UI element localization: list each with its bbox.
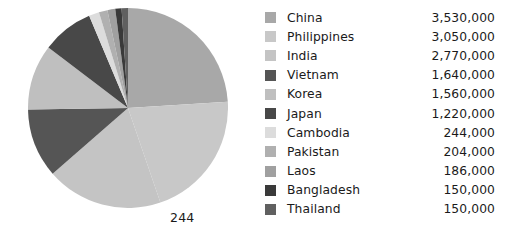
- chart-legend: China3,530,000Philippines3,050,000India2…: [265, 8, 495, 219]
- legend-item-value: 150,000: [409, 183, 495, 197]
- legend-item[interactable]: China3,530,000: [265, 8, 495, 27]
- legend-item-label: Bangladesh: [287, 183, 409, 197]
- legend-item-value: 186,000: [409, 164, 495, 178]
- pie-chart-figure: 244 China3,530,000Philippines3,050,000In…: [0, 0, 505, 236]
- legend-item-value: 150,000: [409, 202, 495, 216]
- legend-item-value: 3,530,000: [409, 11, 495, 25]
- legend-color-swatch-icon: [265, 12, 276, 23]
- legend-item-value: 204,000: [409, 145, 495, 159]
- legend-item[interactable]: Vietnam1,640,000: [265, 66, 495, 85]
- legend-color-swatch-icon: [265, 185, 276, 196]
- legend-item-label: Pakistan: [287, 145, 409, 159]
- legend-item-value: 1,220,000: [409, 107, 495, 121]
- legend-color-swatch-icon: [265, 31, 276, 42]
- legend-item-value: 1,560,000: [409, 87, 495, 101]
- legend-item[interactable]: Pakistan204,000: [265, 142, 495, 161]
- legend-color-swatch-icon: [265, 108, 276, 119]
- legend-item[interactable]: Philippines3,050,000: [265, 27, 495, 46]
- legend-color-swatch-icon: [265, 70, 276, 81]
- legend-item-label: Laos: [287, 164, 409, 178]
- legend-color-swatch-icon: [265, 50, 276, 61]
- pie-slice[interactable]: [128, 8, 228, 108]
- legend-item[interactable]: Korea1,560,000: [265, 85, 495, 104]
- legend-color-swatch-icon: [265, 89, 276, 100]
- pie-chart-svg: [28, 8, 228, 208]
- legend-item-label: Philippines: [287, 30, 409, 44]
- legend-item-label: China: [287, 11, 409, 25]
- legend-item-label: Japan: [287, 107, 409, 121]
- pie-slice-group: [28, 8, 228, 208]
- legend-item-value: 1,640,000: [409, 68, 495, 82]
- pie-chart-plot-area: [28, 8, 228, 208]
- legend-item-label: Korea: [287, 87, 409, 101]
- legend-color-swatch-icon: [265, 166, 276, 177]
- legend-item-value: 2,770,000: [409, 49, 495, 63]
- legend-item-value: 244,000: [409, 126, 495, 140]
- legend-item-label: Vietnam: [287, 68, 409, 82]
- legend-color-swatch-icon: [265, 204, 276, 215]
- pie-annotation-label: 244: [170, 210, 194, 225]
- legend-item-label: India: [287, 49, 409, 63]
- legend-item[interactable]: Laos186,000: [265, 162, 495, 181]
- legend-item[interactable]: Cambodia244,000: [265, 123, 495, 142]
- legend-item-label: Cambodia: [287, 126, 409, 140]
- legend-color-swatch-icon: [265, 146, 276, 157]
- legend-item-label: Thailand: [287, 202, 409, 216]
- legend-color-swatch-icon: [265, 127, 276, 138]
- legend-item[interactable]: Thailand150,000: [265, 200, 495, 219]
- legend-item[interactable]: Bangladesh150,000: [265, 181, 495, 200]
- legend-item-value: 3,050,000: [409, 30, 495, 44]
- legend-item[interactable]: Japan1,220,000: [265, 104, 495, 123]
- legend-item[interactable]: India2,770,000: [265, 46, 495, 65]
